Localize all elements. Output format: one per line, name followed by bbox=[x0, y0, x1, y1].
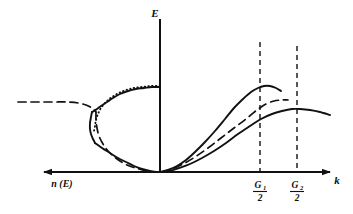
figure-canvas: E k n (E) G12G22 bbox=[0, 0, 353, 214]
density-axis-label: n (E) bbox=[51, 178, 72, 190]
dos-dotted-upper-left bbox=[94, 86, 160, 131]
band-1-solid-right bbox=[160, 86, 281, 172]
dos-solid-lower-left bbox=[95, 143, 158, 172]
dos-dashed-far-left bbox=[18, 102, 96, 112]
tick-labels-group: G12G22 bbox=[253, 180, 304, 203]
energy-axis-label: E bbox=[150, 7, 158, 19]
tick-g2-half-subscript: 2 bbox=[299, 184, 304, 191]
tick-g1-half: G12 bbox=[253, 180, 267, 203]
tick-g2-half-numerator: G bbox=[292, 180, 299, 190]
tick-g2-half: G22 bbox=[290, 180, 304, 203]
curves-group bbox=[18, 86, 330, 172]
dos-solid-upper-left bbox=[92, 87, 160, 112]
wavevector-axis-label: k bbox=[334, 174, 340, 186]
band-structure-figure: E k n (E) G12G22 bbox=[0, 0, 353, 214]
tick-g1-half-subscript: 1 bbox=[263, 184, 266, 191]
axis-labels-group: E k n (E) bbox=[51, 7, 340, 190]
tick-g1-half-denominator: 2 bbox=[257, 193, 263, 203]
brillouin-zone-guides bbox=[260, 42, 297, 172]
dos-dashed-lower-left bbox=[96, 112, 151, 172]
axes-group bbox=[44, 20, 330, 172]
tick-g1-half-numerator: G bbox=[255, 180, 262, 190]
free-electron-dashed-right bbox=[162, 100, 288, 172]
tick-g2-half-denominator: 2 bbox=[294, 193, 300, 203]
